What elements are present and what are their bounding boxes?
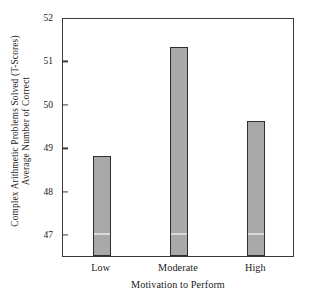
bar-midline	[171, 233, 187, 235]
bar	[93, 156, 111, 256]
y-tick-mark	[62, 61, 68, 62]
plot-area	[62, 18, 294, 257]
y-axis-title: Average Number of Correct Complex Arithm…	[0, 0, 42, 262]
bar-chart-figure: Average Number of Correct Complex Arithm…	[0, 0, 309, 301]
y-tick-mark	[62, 235, 68, 236]
x-tick-label: Low	[91, 262, 110, 273]
y-axis-title-line-1: Average Number of Correct	[21, 77, 32, 186]
y-tick-label: 52	[0, 13, 53, 23]
bar	[247, 121, 265, 256]
y-tick-mark	[62, 104, 68, 105]
y-tick-label: 49	[0, 143, 53, 153]
bar	[170, 47, 188, 256]
bar-midline	[94, 233, 110, 235]
y-tick-mark	[62, 148, 68, 149]
bar-midline	[248, 233, 264, 235]
x-tick-label: Moderate	[158, 262, 198, 273]
y-tick-mark	[62, 191, 68, 192]
x-axis-title: Motivation to Perform	[62, 279, 294, 290]
x-tick-label: High	[245, 262, 266, 273]
y-tick-label: 50	[0, 100, 53, 110]
y-tick-label: 48	[0, 187, 53, 197]
y-tick-label: 51	[0, 56, 53, 66]
y-tick-label: 47	[0, 230, 53, 240]
